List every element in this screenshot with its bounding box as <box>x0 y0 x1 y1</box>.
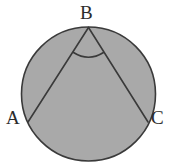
circle-outline <box>22 27 156 161</box>
vertex-label-a: A <box>6 108 20 127</box>
vertex-label-c: C <box>151 108 164 127</box>
vertex-label-b: B <box>80 3 93 22</box>
geometry-canvas <box>0 0 178 167</box>
geometry-figure: B A C <box>0 0 178 167</box>
